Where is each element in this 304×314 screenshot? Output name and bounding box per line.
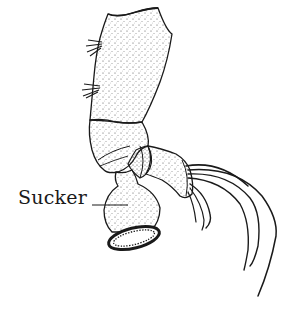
distal-segment [146,146,193,198]
middle-segments [89,119,151,178]
upper-segment [82,8,172,123]
claws [186,165,276,296]
sucker [104,170,162,254]
sucker-label: Sucker [18,186,87,208]
leg-illustration [0,0,304,314]
